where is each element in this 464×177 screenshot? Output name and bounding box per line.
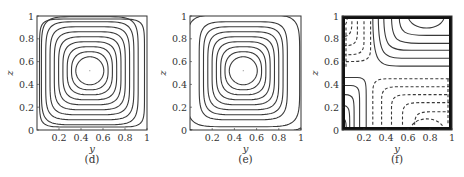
- center-point: [89, 70, 90, 71]
- x-tick-label: 0.8: [117, 132, 132, 143]
- y-tick-label: 0.2: [172, 102, 187, 113]
- x-tick-label: 0.6: [249, 132, 264, 143]
- y-tick-label: 1: [181, 11, 187, 22]
- panel-caption: (f): [391, 153, 403, 165]
- y-tick-label: 0.4: [19, 79, 34, 90]
- y-tick-label: 1: [28, 11, 34, 22]
- y-tick-label: 1: [333, 11, 339, 22]
- y-tick-label: 0.6: [324, 56, 339, 67]
- panel-caption: (d): [85, 153, 100, 165]
- y-tick-label: 0.6: [19, 56, 34, 67]
- x-tick-label: 0.8: [422, 132, 437, 143]
- contour-lines: [40, 17, 145, 127]
- y-tick-label: 0.2: [19, 102, 34, 113]
- x-tick-label: 0.2: [205, 132, 220, 143]
- y-axis-label: z: [309, 70, 320, 77]
- panel-e: 00.20.40.60.810.20.40.60.81yz(e): [157, 10, 310, 165]
- y-tick-label: 0: [28, 125, 34, 136]
- center-point: [243, 70, 244, 71]
- y-tick-label: 0.8: [172, 33, 187, 44]
- y-tick-label: 0: [181, 125, 187, 136]
- x-tick-label: 0.6: [400, 132, 415, 143]
- y-axis-label: z: [157, 70, 168, 77]
- y-tick-label: 0.8: [324, 33, 339, 44]
- x-tick-label: 0.4: [378, 132, 393, 143]
- panel-d: 00.20.40.60.810.20.40.60.81yz(d): [4, 11, 150, 166]
- x-tick-label: 1: [144, 132, 150, 143]
- y-tick-label: 0.4: [172, 79, 187, 90]
- contour-lines: [338, 14, 452, 134]
- panel-f: 00.20.40.60.810.20.40.60.81yz(f): [309, 11, 455, 166]
- x-tick-label: 0.2: [356, 132, 371, 143]
- plot-frame: [190, 16, 301, 130]
- x-tick-label: 1: [449, 132, 455, 143]
- x-tick-label: 1: [298, 132, 304, 143]
- panel-caption: (e): [238, 153, 252, 165]
- y-tick-label: 0.2: [324, 102, 339, 113]
- x-tick-label: 0.6: [95, 132, 110, 143]
- y-tick-label: 0.8: [19, 33, 34, 44]
- y-axis-label: z: [4, 70, 15, 77]
- y-tick-label: 0.6: [172, 56, 187, 67]
- y-tick-label: 0.4: [324, 79, 339, 90]
- x-tick-label: 0.8: [271, 132, 286, 143]
- x-tick-label: 0.2: [51, 132, 66, 143]
- y-tick-label: 0: [333, 125, 339, 136]
- x-tick-label: 0.4: [227, 132, 242, 143]
- plot-frame: [342, 16, 452, 130]
- figure: 00.20.40.60.810.20.40.60.81yz(d) 00.20.4…: [0, 0, 464, 177]
- x-tick-label: 0.4: [73, 132, 88, 143]
